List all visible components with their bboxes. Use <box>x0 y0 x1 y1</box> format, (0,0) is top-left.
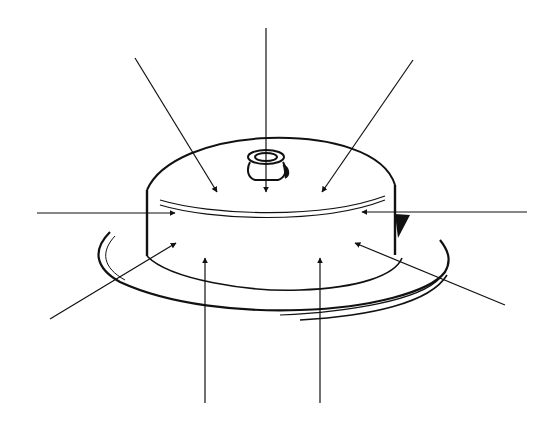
arrow-lower-right <box>355 243 505 305</box>
arrow-top-right <box>322 60 413 192</box>
arrow-lower-left <box>50 243 176 319</box>
knob <box>248 150 288 180</box>
arrow-top-left <box>135 58 217 192</box>
cake-cover-illustration <box>0 0 551 431</box>
arrows <box>37 28 527 403</box>
